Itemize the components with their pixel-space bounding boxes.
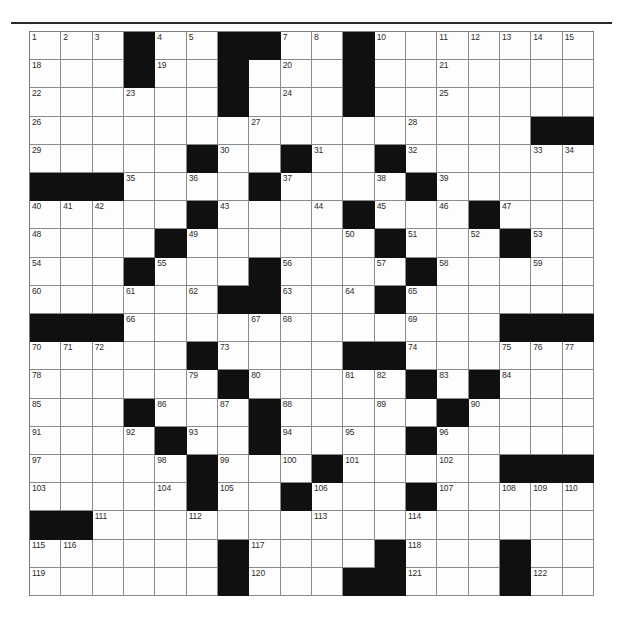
grid-cell[interactable] xyxy=(124,370,155,398)
grid-cell[interactable]: 10 xyxy=(375,32,406,60)
grid-cell[interactable] xyxy=(281,511,312,539)
grid-cell[interactable] xyxy=(343,145,374,173)
grid-cell[interactable] xyxy=(187,88,218,116)
grid-cell[interactable]: 12 xyxy=(469,32,500,60)
grid-cell[interactable]: 80 xyxy=(249,370,280,398)
grid-cell[interactable]: 14 xyxy=(531,32,562,60)
grid-cell[interactable] xyxy=(312,286,343,314)
grid-cell[interactable]: 98 xyxy=(155,455,186,483)
grid-cell[interactable]: 20 xyxy=(281,60,312,88)
grid-cell[interactable] xyxy=(375,88,406,116)
grid-cell[interactable] xyxy=(375,427,406,455)
grid-cell[interactable]: 58 xyxy=(437,258,468,286)
grid-cell[interactable] xyxy=(563,286,594,314)
grid-cell[interactable]: 88 xyxy=(281,399,312,427)
grid-cell[interactable] xyxy=(343,511,374,539)
grid-cell[interactable] xyxy=(61,370,92,398)
grid-cell[interactable] xyxy=(155,145,186,173)
grid-cell[interactable] xyxy=(249,483,280,511)
grid-cell[interactable]: 52 xyxy=(469,229,500,257)
grid-cell[interactable] xyxy=(155,568,186,596)
grid-cell[interactable]: 59 xyxy=(531,258,562,286)
grid-cell[interactable] xyxy=(469,511,500,539)
grid-cell[interactable] xyxy=(124,483,155,511)
grid-cell[interactable] xyxy=(312,399,343,427)
grid-cell[interactable] xyxy=(218,173,249,201)
grid-cell[interactable] xyxy=(61,483,92,511)
grid-cell[interactable]: 49 xyxy=(187,229,218,257)
grid-cell[interactable]: 91 xyxy=(30,427,61,455)
grid-cell[interactable] xyxy=(437,229,468,257)
grid-cell[interactable] xyxy=(469,540,500,568)
grid-cell[interactable]: 92 xyxy=(124,427,155,455)
grid-cell[interactable]: 94 xyxy=(281,427,312,455)
grid-cell[interactable]: 33 xyxy=(531,145,562,173)
grid-cell[interactable] xyxy=(500,173,531,201)
grid-cell[interactable] xyxy=(469,60,500,88)
grid-cell[interactable] xyxy=(312,342,343,370)
grid-cell[interactable] xyxy=(563,173,594,201)
grid-cell[interactable] xyxy=(375,511,406,539)
grid-cell[interactable] xyxy=(312,173,343,201)
grid-cell[interactable]: 96 xyxy=(437,427,468,455)
grid-cell[interactable]: 63 xyxy=(281,286,312,314)
grid-cell[interactable] xyxy=(531,201,562,229)
grid-cell[interactable] xyxy=(281,568,312,596)
grid-cell[interactable] xyxy=(312,88,343,116)
grid-cell[interactable] xyxy=(61,568,92,596)
grid-cell[interactable] xyxy=(406,32,437,60)
grid-cell[interactable]: 100 xyxy=(281,455,312,483)
grid-cell[interactable] xyxy=(218,427,249,455)
grid-cell[interactable] xyxy=(563,568,594,596)
grid-cell[interactable]: 95 xyxy=(343,427,374,455)
grid-cell[interactable] xyxy=(249,201,280,229)
grid-cell[interactable] xyxy=(563,511,594,539)
grid-cell[interactable]: 28 xyxy=(406,117,437,145)
grid-cell[interactable] xyxy=(563,370,594,398)
grid-cell[interactable]: 55 xyxy=(155,258,186,286)
grid-cell[interactable]: 70 xyxy=(30,342,61,370)
grid-cell[interactable]: 43 xyxy=(218,201,249,229)
grid-cell[interactable] xyxy=(563,201,594,229)
grid-cell[interactable]: 86 xyxy=(155,399,186,427)
grid-cell[interactable]: 51 xyxy=(406,229,437,257)
grid-cell[interactable] xyxy=(563,60,594,88)
grid-cell[interactable] xyxy=(93,427,124,455)
grid-cell[interactable]: 99 xyxy=(218,455,249,483)
grid-cell[interactable] xyxy=(155,540,186,568)
grid-cell[interactable] xyxy=(93,258,124,286)
grid-cell[interactable]: 34 xyxy=(563,145,594,173)
grid-cell[interactable] xyxy=(281,201,312,229)
grid-cell[interactable] xyxy=(437,117,468,145)
grid-cell[interactable]: 62 xyxy=(187,286,218,314)
grid-cell[interactable]: 101 xyxy=(343,455,374,483)
grid-cell[interactable] xyxy=(155,88,186,116)
grid-cell[interactable]: 71 xyxy=(61,342,92,370)
grid-cell[interactable]: 89 xyxy=(375,399,406,427)
grid-cell[interactable]: 77 xyxy=(563,342,594,370)
grid-cell[interactable]: 36 xyxy=(187,173,218,201)
grid-cell[interactable]: 54 xyxy=(30,258,61,286)
grid-cell[interactable]: 83 xyxy=(437,370,468,398)
grid-cell[interactable]: 18 xyxy=(30,60,61,88)
grid-cell[interactable]: 24 xyxy=(281,88,312,116)
grid-cell[interactable] xyxy=(218,314,249,342)
grid-cell[interactable] xyxy=(469,568,500,596)
grid-cell[interactable]: 31 xyxy=(312,145,343,173)
grid-cell[interactable] xyxy=(500,145,531,173)
grid-cell[interactable] xyxy=(312,117,343,145)
grid-cell[interactable]: 105 xyxy=(218,483,249,511)
grid-cell[interactable] xyxy=(155,314,186,342)
grid-cell[interactable] xyxy=(375,314,406,342)
grid-cell[interactable]: 41 xyxy=(61,201,92,229)
grid-cell[interactable] xyxy=(281,229,312,257)
grid-cell[interactable] xyxy=(155,342,186,370)
grid-cell[interactable]: 81 xyxy=(343,370,374,398)
grid-cell[interactable] xyxy=(124,229,155,257)
grid-cell[interactable] xyxy=(500,286,531,314)
grid-cell[interactable]: 26 xyxy=(30,117,61,145)
grid-cell[interactable] xyxy=(312,427,343,455)
grid-cell[interactable] xyxy=(155,286,186,314)
grid-cell[interactable]: 73 xyxy=(218,342,249,370)
grid-cell[interactable]: 22 xyxy=(30,88,61,116)
